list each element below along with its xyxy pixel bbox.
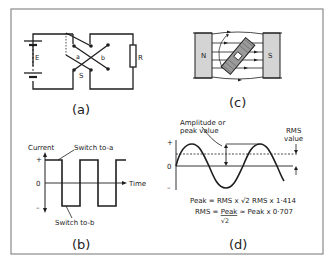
formula-peak: Peak = RMS x √2 RMS x 1·414 [190, 197, 297, 205]
plus-label-b: + [36, 156, 42, 164]
south-pole-label: S [268, 52, 273, 60]
switch-to-a-label: Switch to-a [74, 144, 113, 152]
zero-label-b: 0 [36, 180, 40, 188]
caption-b: (b) [72, 237, 90, 252]
caption-a: (a) [72, 102, 90, 117]
switch-to-b-label: Switch to-b [55, 219, 95, 227]
resistor-label: R [138, 54, 143, 62]
switch-label: S [79, 72, 84, 80]
north-pole-label: N [201, 52, 206, 60]
panel-d-graph [176, 127, 298, 190]
zero-label-d: 0 [167, 163, 171, 171]
caption-c: (c) [229, 95, 246, 110]
rms-label-line1: RMS [286, 127, 302, 135]
formula-rms-denominator: √2 [221, 217, 229, 224]
amplitude-label-line2: peak value [180, 127, 218, 135]
minus-label-d: – [167, 184, 171, 192]
contact-a-label: a [76, 53, 80, 60]
formula-rms: RMS = Peak ≃ Peak x 0·707 [195, 208, 293, 216]
caption-d: (d) [229, 237, 247, 252]
plus-label-d: + [167, 139, 173, 147]
ac-generation-diagram: E R S a b (a) [0, 0, 331, 269]
current-axis-label: Current [28, 144, 55, 152]
time-axis-label: Time [128, 180, 146, 188]
panel-a-circuit [24, 33, 136, 89]
amplitude-label-line1: Amplitude or [180, 119, 225, 127]
rms-label-line2: value [284, 135, 303, 143]
contact-b-label: b [101, 54, 105, 61]
panel-b-graph [43, 150, 127, 218]
battery-label: E [35, 54, 39, 62]
minus-label-b: – [36, 204, 40, 212]
